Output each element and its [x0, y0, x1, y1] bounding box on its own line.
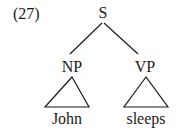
- edge-s-np: [70, 23, 102, 54]
- node-np: NP: [62, 59, 82, 75]
- node-vp: VP: [135, 59, 155, 75]
- terminal-john: John: [52, 111, 82, 127]
- terminal-sleeps: sleeps: [126, 111, 165, 127]
- vp-triangle: [124, 77, 168, 107]
- edge-s-vp: [104, 23, 138, 54]
- example-number: (27): [13, 6, 40, 22]
- syntax-tree-diagram: (27) S NP VP John sleeps: [0, 0, 176, 133]
- np-triangle: [45, 77, 89, 107]
- node-s: S: [99, 5, 108, 21]
